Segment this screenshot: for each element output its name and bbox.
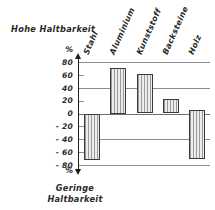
y-tick-label--80: - 80: [47, 161, 73, 170]
chart-bottom-caption-line2: Haltbarkeit: [36, 194, 114, 205]
category-label-aluminium: Aluminium: [108, 6, 137, 56]
y-tick-label-0: 0: [47, 109, 73, 118]
tick-60: [79, 75, 84, 76]
y-tick-label--20: - 20: [47, 122, 73, 131]
gridline-80: [79, 62, 210, 63]
chart-bottom-caption-line1: Geringe: [36, 183, 114, 194]
category-label-slot-0: Stahl: [90, 0, 91, 56]
bar-holz: [189, 110, 205, 158]
bar-stahl: [84, 114, 100, 160]
bar-aluminium: [110, 68, 126, 113]
y-tick-label-80: 80: [47, 58, 73, 67]
y-tick-label-40: 40: [47, 84, 73, 93]
category-label-slot-2: Kunststoff: [143, 0, 144, 56]
category-label-kunststoff: Kunststoff: [134, 7, 162, 56]
y-tick-label--40: - 40: [47, 135, 73, 144]
y-tick-label--60: - 60: [47, 148, 73, 157]
bar-kunststoff: [137, 74, 153, 114]
y-tick-label-20: 20: [47, 96, 73, 105]
durability-bar-chart: Hohe Haltbarkeit % % 806040200- 20- 40- …: [0, 0, 215, 210]
gridline--80: [79, 165, 210, 166]
chart-bottom-caption: Geringe Haltbarkeit: [36, 183, 114, 204]
plot-area: [79, 56, 210, 171]
category-label-holz: Holz: [187, 34, 204, 56]
category-label-slot-1: Aluminium: [116, 0, 117, 56]
category-label-backsteine: Backsteine: [160, 5, 189, 56]
tick-20: [79, 101, 84, 102]
y-tick-label-60: 60: [47, 71, 73, 80]
category-label-slot-4: Holz: [195, 0, 196, 56]
category-label-slot-3: Backsteine: [169, 0, 170, 56]
y-axis-unit-top: %: [47, 45, 73, 54]
bar-backsteine: [163, 99, 179, 113]
chart-top-caption: Hohe Haltbarkeit: [11, 24, 95, 34]
